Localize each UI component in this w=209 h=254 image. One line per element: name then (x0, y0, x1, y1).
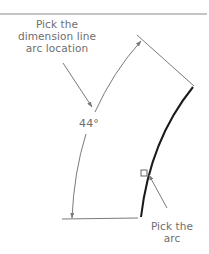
leader-arc-callout (149, 175, 167, 208)
leader-dimension-callout (63, 63, 92, 107)
callout-line: arc location (14, 42, 100, 54)
extension-line-upper (137, 35, 194, 86)
callout-line: arc (143, 232, 201, 244)
dimension-arc-upper (95, 41, 141, 112)
callout-line: Pick the (143, 220, 201, 232)
callout-dimension-line-location: Pick the dimension line arc location (14, 18, 100, 54)
dimension-arc-lower (72, 134, 86, 218)
extension-line-lower (62, 218, 138, 219)
pick-box-icon (141, 170, 147, 176)
callout-pick-arc: Pick the arc (143, 220, 201, 244)
callout-line: Pick the (14, 18, 100, 30)
callout-line: dimension line (14, 30, 100, 42)
angle-dimension-text: 44° (76, 118, 102, 130)
selected-arc[interactable] (141, 87, 193, 217)
